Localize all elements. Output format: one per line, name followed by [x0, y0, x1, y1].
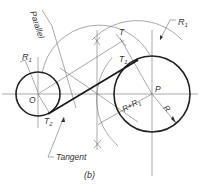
arrowhead-tangent: [61, 117, 65, 122]
tangent-construction-diagram: Parallel R1 R1 T T1 T2 O P R+R1 R Tangen…: [0, 0, 205, 185]
label-t: T: [119, 27, 125, 37]
label-r1-large: R1: [178, 17, 188, 28]
line-p-to-t: [120, 38, 152, 94]
line-o-to-t: [38, 40, 124, 94]
label-parallel: Parallel: [28, 10, 47, 41]
construction-line-o-diagonal: [60, 68, 138, 122]
figure-caption: (b): [84, 170, 95, 180]
label-center-o: O: [29, 95, 36, 105]
label-t1: T1: [119, 54, 128, 65]
label-t2: T2: [44, 116, 53, 127]
label-center-p: P: [155, 84, 161, 94]
arrowhead-r: [171, 116, 176, 123]
parallel-line-extension: [42, 10, 52, 26]
leader-r1-small: [20, 60, 38, 92]
parallel-line: [52, 26, 76, 108]
label-r1-small: R1: [22, 52, 32, 63]
construction-arc-midpoint: [42, 25, 150, 74]
label-r-plus-r1: R+R1: [121, 97, 143, 115]
label-tangent: Tangent: [56, 152, 87, 162]
arrowhead-r1-large: [160, 35, 163, 40]
line-o-to-t2: [38, 94, 50, 114]
